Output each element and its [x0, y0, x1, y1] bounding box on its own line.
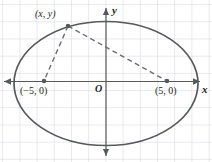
- ellipse-graph-svg: [0, 0, 212, 162]
- point-marker-xy: [66, 24, 71, 29]
- ellipse-figure: (x, y) (−5, 0) (5, 0) O y x: [0, 0, 212, 162]
- focus-label-right: (5, 0): [155, 86, 177, 96]
- focus-marker-right: [165, 79, 170, 84]
- y-axis-label: y: [112, 5, 117, 16]
- origin-label: O: [95, 84, 102, 94]
- point-label-xy: (x, y): [35, 9, 56, 19]
- focus-label-left: (−5, 0): [20, 86, 47, 96]
- x-axis-label: x: [202, 84, 208, 95]
- focus-marker-left: [42, 79, 47, 84]
